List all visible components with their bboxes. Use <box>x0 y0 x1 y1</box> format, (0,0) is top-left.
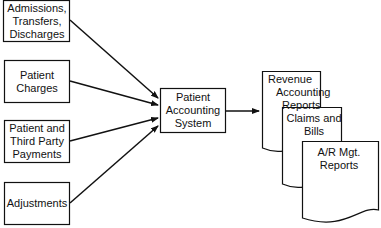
output-label-revenue: Revenue Accounting Reports <box>266 73 326 112</box>
label-line: Bills <box>284 125 344 138</box>
label-line: Patient <box>160 91 226 104</box>
label-line: System <box>160 117 226 130</box>
input-label-adjustments: Adjustments <box>4 197 70 210</box>
label-line: Accounting <box>160 104 226 117</box>
label-line: Patient <box>4 69 70 82</box>
label-line: Accounting <box>266 86 326 99</box>
label-line: Third Party <box>4 135 70 148</box>
input-label-charges: Patient Charges <box>4 69 70 95</box>
label-line: Revenue <box>266 73 326 86</box>
label-line: Reports <box>304 159 374 172</box>
arrow-charges <box>70 81 158 105</box>
label-line: Transfers, <box>4 15 70 28</box>
label-line: Claims and <box>284 112 344 125</box>
input-label-payments: Patient and Third Party Payments <box>4 122 70 161</box>
label-line: Discharges <box>4 28 70 41</box>
input-label-admissions: Admissions, Transfers, Discharges <box>4 2 70 41</box>
label-line: Reports <box>266 99 326 112</box>
output-label-ar: A/R Mgt. Reports <box>304 146 374 172</box>
label-line: Patient and <box>4 122 70 135</box>
arrow-admissions <box>70 20 158 98</box>
label-line: Charges <box>4 82 70 95</box>
center-label: Patient Accounting System <box>160 91 226 130</box>
label-line: Admissions, <box>4 2 70 15</box>
output-label-claims: Claims and Bills <box>284 112 344 138</box>
label-line: Payments <box>4 148 70 161</box>
label-line: Adjustments <box>4 197 70 210</box>
label-line: A/R Mgt. <box>304 146 374 159</box>
